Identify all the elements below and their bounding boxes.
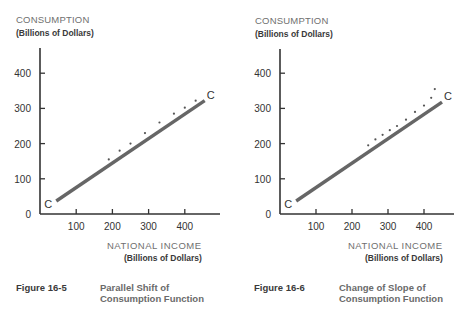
x-axis-title: NATIONAL INCOME [348,240,443,251]
x-tick-label: 100 [308,221,325,232]
x-tick-label: 200 [104,221,121,232]
dotted-line-point [195,100,197,102]
figure-number: Figure 16-6 [254,282,305,293]
x-tick-label: 100 [68,221,85,232]
x-tick-label: 300 [380,221,397,232]
plot-area: 0100200300400100200300400CC [237,0,474,316]
figure-16-5: CONSUMPTION (Billions of Dollars) 010020… [0,0,237,316]
consumption-line-c [56,101,204,201]
dotted-line-point [173,113,175,115]
dotted-line-point [396,125,398,127]
caption-line: Consumption Function [339,293,443,304]
dotted-line-point [144,132,146,134]
line-label-c-start: C [284,198,292,210]
y-tick-label: 400 [254,68,271,79]
y-tick-label: 200 [14,139,31,150]
x-axis-units: (Billions of Dollars) [365,253,443,263]
dotted-line-point [423,104,425,106]
x-tick-label: 400 [416,221,433,232]
line-label-c-end: C [207,89,215,101]
consumption-line-c [296,102,442,201]
figure-number: Figure 16-5 [16,282,67,293]
x-tick-label: 200 [344,221,361,232]
y-tick-label: 100 [14,174,31,185]
y-tick-label: 200 [254,139,271,150]
x-tick-label: 400 [176,221,193,232]
dotted-line-point [430,97,432,99]
dotted-line-point [414,111,416,113]
plot-area: 0100200300400100200300400CC [0,0,237,316]
dotted-line-point [158,121,160,123]
dotted-line-point [382,134,384,136]
figure-16-6: CONSUMPTION (Billions of Dollars) 010020… [237,0,474,316]
dotted-line-point [434,88,436,90]
dotted-line-point [119,150,121,152]
dotted-line-point [389,129,391,131]
figure-caption: Parallel Shift of Consumption Function [100,282,204,304]
dotted-line-point [405,119,407,121]
figure-caption: Change of Slope of Consumption Function [339,282,443,304]
caption-line: Parallel Shift of [100,282,204,293]
dotted-line-point [367,144,369,146]
dotted-line-point [108,158,110,160]
y-tick-label: 0 [265,209,271,220]
y-tick-label: 300 [254,103,271,114]
y-tick-label: 100 [254,174,271,185]
x-axis-title: NATIONAL INCOME [107,240,202,251]
x-axis-units: (Billions of Dollars) [124,253,202,263]
y-tick-label: 0 [25,209,31,220]
dotted-line-point [129,143,131,145]
x-tick-label: 300 [140,221,157,232]
y-tick-label: 400 [14,68,31,79]
line-label-c-end: C [444,90,452,102]
caption-line: Consumption Function [100,293,204,304]
line-label-c-start: C [44,198,52,210]
y-tick-label: 300 [14,103,31,114]
caption-line: Change of Slope of [339,282,443,293]
dotted-line-point [374,138,376,140]
dotted-line-point [184,107,186,109]
